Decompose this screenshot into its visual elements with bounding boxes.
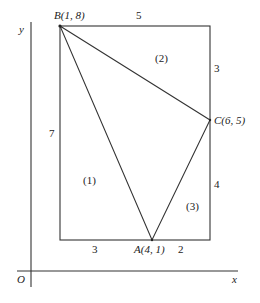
region-1-label: (1) bbox=[83, 174, 96, 187]
dimension-right-upper: 3 bbox=[214, 62, 220, 74]
origin-label: O bbox=[17, 273, 25, 285]
dimension-left: 7 bbox=[49, 127, 55, 139]
dimension-right-lower: 4 bbox=[214, 178, 220, 190]
vertex-c-dot bbox=[209, 119, 211, 121]
vertex-c-label: C(6, 5) bbox=[214, 114, 246, 127]
dimension-top: 5 bbox=[136, 9, 142, 21]
y-axis-label: y bbox=[18, 23, 24, 35]
dimension-bottom-right: 2 bbox=[178, 243, 184, 255]
vertex-b-dot bbox=[58, 24, 61, 27]
vertex-a-label: A(4, 1) bbox=[133, 243, 165, 256]
vertex-b-label: B(1, 8) bbox=[54, 9, 85, 22]
triangle-rectangle-diagram: y O x B(1, 8) C(6, 5) A(4, 1) 5 3 4 7 3 … bbox=[0, 0, 260, 303]
dimension-bottom-left: 3 bbox=[92, 243, 98, 255]
region-2-label: (2) bbox=[155, 52, 168, 65]
region-3-label: (3) bbox=[186, 200, 199, 213]
x-axis-label: x bbox=[231, 273, 237, 285]
vertex-a-dot bbox=[151, 239, 153, 241]
